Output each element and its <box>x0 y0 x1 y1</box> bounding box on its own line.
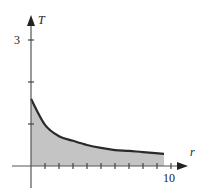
y-tick-label-3: 3 <box>14 33 20 47</box>
y-axis-arrow-icon <box>27 15 35 26</box>
x-axis-arrow-icon <box>177 162 188 170</box>
x-axis-label: r <box>190 145 195 159</box>
y-axis-label: T <box>38 13 46 27</box>
shaded-area <box>31 99 164 166</box>
x-tick-label-10: 10 <box>163 171 175 185</box>
chart: T r 3 10 <box>0 0 202 196</box>
